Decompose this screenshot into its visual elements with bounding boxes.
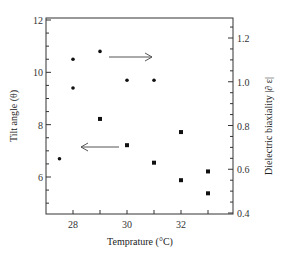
y-right-tick-label: 0.6	[237, 164, 250, 175]
data-point-square	[206, 169, 210, 173]
y-right-tick-label: 1.0	[237, 77, 250, 88]
data-points	[58, 50, 210, 196]
arrow-right-icon	[109, 53, 152, 61]
y-right-tick-label: 0.4	[237, 208, 250, 219]
data-point-square	[179, 130, 183, 134]
plot-frame	[46, 18, 233, 214]
data-point-dot	[58, 157, 62, 161]
y-right-tick-label: 1.2	[237, 33, 250, 44]
annotation-arrows	[81, 53, 152, 151]
y-left-axis-label: Tilt angle (θ)	[8, 90, 20, 142]
scatter-chart: 283032 681012 0.40.60.81.01.2 Temprature…	[0, 0, 287, 260]
x-tick-label: 28	[68, 219, 78, 230]
data-point-square	[152, 161, 156, 165]
x-tick-label: 32	[176, 219, 186, 230]
y-left-tick-label: 6	[38, 172, 43, 183]
data-point-dot	[152, 78, 156, 82]
data-point-dot	[98, 50, 102, 54]
data-point-square	[206, 191, 210, 195]
y-left-tick-label: 10	[33, 67, 43, 78]
x-tick-label: 30	[122, 219, 132, 230]
data-point-dot	[71, 86, 75, 90]
data-point-square	[179, 178, 183, 182]
y-right-tick-label: 0.8	[237, 121, 250, 132]
y-right-axis-ticks: 0.40.60.81.01.2	[228, 27, 250, 219]
arrow-left-icon	[81, 143, 119, 151]
data-point-square	[125, 143, 129, 147]
data-point-square	[98, 117, 102, 121]
x-axis-label: Temprature (°C)	[107, 236, 173, 248]
y-left-tick-label: 8	[38, 120, 43, 131]
data-point-dot	[71, 57, 75, 61]
y-right-axis-label: Dielectric biaxiality |∂ ε|	[263, 77, 274, 175]
y-left-tick-label: 12	[33, 15, 43, 26]
y-left-axis-ticks: 681012	[33, 15, 51, 203]
x-axis-ticks: 283032	[68, 210, 208, 230]
data-point-dot	[125, 78, 129, 82]
